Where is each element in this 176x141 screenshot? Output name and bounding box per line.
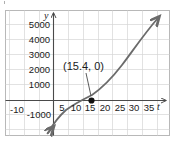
y-tick-label-neg1000: -1000 [27,109,51,120]
y-tick-label-3000: 3000 [29,49,50,60]
y-tick-label-5000: 5000 [29,19,50,30]
y-tick-label-1000: 1000 [29,79,50,90]
y-tick-labels: 5000 4000 3000 2000 1000 -1000 [27,19,51,120]
exponential-curve [48,18,158,133]
x-tick-label-25: 25 [115,102,126,113]
x-tick-label-15: 15 [85,102,96,113]
x-tick-labels: 5 10 15 20 25 30 35 [59,102,154,113]
coordinate-plane-chart: (15.4, 0) y t 5000 4000 3000 2000 1000 -… [0,0,176,141]
y-tick-label-2000: 2000 [29,64,50,75]
x-tick-label-30: 30 [129,102,140,113]
zero-point-label: (15.4, 0) [63,60,104,72]
y-tick-label-4000: 4000 [29,34,50,45]
x-axis-label: t [157,101,160,112]
chart-screenshot: (15.4, 0) y t 5000 4000 3000 2000 1000 -… [0,0,176,141]
x-tick-label-neg10: -10 [10,104,24,115]
x-tick-label-20: 20 [100,102,111,113]
x-tick-label-35: 35 [144,102,155,113]
x-tick-label-10: 10 [71,102,82,113]
x-tick-label-5: 5 [59,102,64,113]
